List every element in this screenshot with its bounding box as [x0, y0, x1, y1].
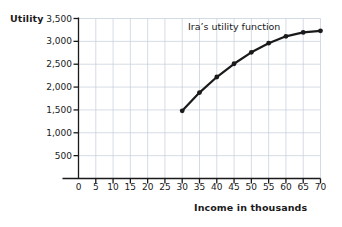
data-point-marker [301, 30, 306, 35]
chart-figure: Utility Income in thousands 5001,0001,50… [0, 0, 342, 227]
data-point-marker [232, 61, 237, 66]
data-point-marker [266, 41, 271, 46]
series-annotation: Ira’s utility function [188, 21, 280, 32]
data-point-marker [197, 90, 202, 95]
data-point-marker [318, 28, 323, 33]
data-point-marker [249, 50, 254, 55]
data-point-marker [214, 75, 219, 80]
plot-area [0, 0, 342, 227]
data-point-marker [180, 108, 185, 113]
data-point-marker [284, 34, 289, 39]
